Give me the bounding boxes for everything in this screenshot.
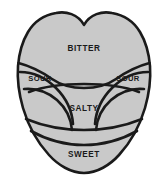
tongue-taste-map-diagram: BITTER SOUR SOUR SALTY SWEET: [0, 0, 168, 187]
tongue-outline-shape: [18, 12, 151, 173]
taste-map-svg: BITTER SOUR SOUR SALTY SWEET: [0, 0, 168, 187]
